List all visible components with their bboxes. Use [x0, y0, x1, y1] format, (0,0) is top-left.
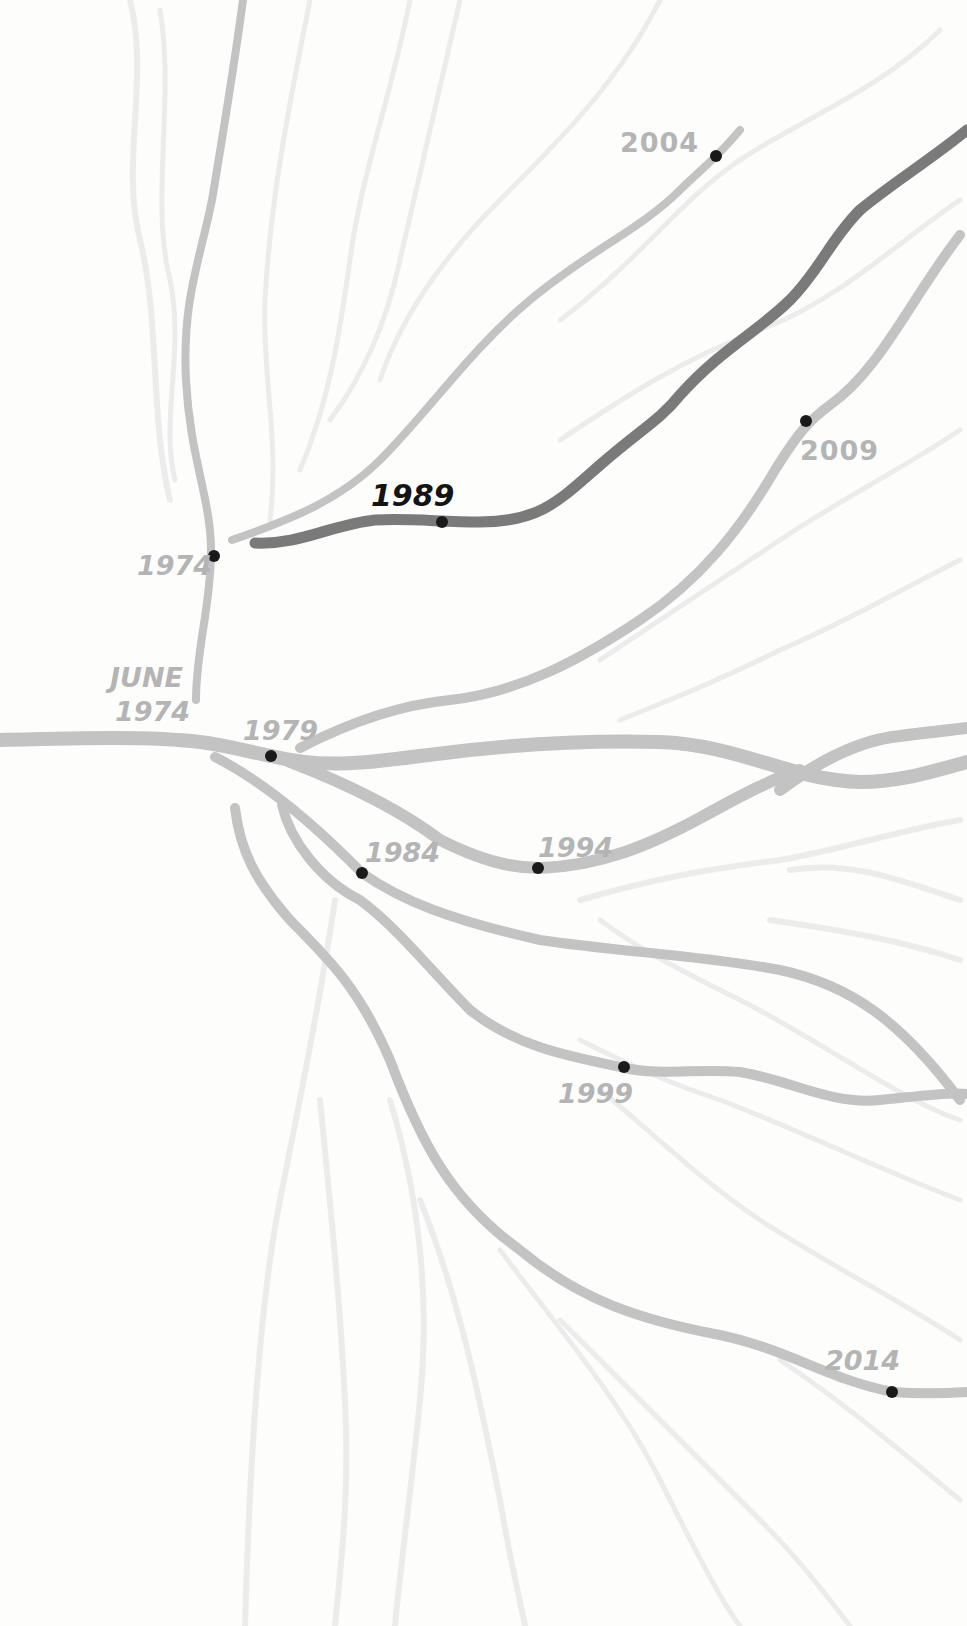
label-1989: 1989 [371, 478, 455, 513]
label-june-1974: 1974 [115, 696, 190, 727]
node-1999 [618, 1061, 630, 1073]
node-1984 [356, 867, 368, 879]
label-1974: 1974 [137, 550, 212, 581]
node-2004 [710, 150, 722, 162]
stream-1974-vertical [185, 0, 243, 700]
node-1979 [265, 750, 277, 762]
faint-stream [390, 1100, 424, 1626]
faint-stream [245, 900, 335, 1626]
stream-2004 [232, 130, 740, 540]
label-2014: 2014 [825, 1345, 900, 1376]
faint-stream [600, 1090, 960, 1340]
node-2009 [800, 415, 812, 427]
label-1984: 1984 [365, 837, 440, 868]
node-2014 [886, 1386, 898, 1398]
faint-stream [300, 0, 410, 470]
faint-stream [790, 867, 960, 900]
branching-timeline-diagram: 1974 JUNE 1974 1979 1984 1989 1994 1999 … [0, 0, 967, 1626]
label-2009: 2009 [800, 435, 879, 466]
faint-stream [380, 0, 660, 380]
label-1979: 1979 [243, 715, 318, 746]
label-2004: 2004 [620, 127, 699, 158]
label-1994: 1994 [538, 832, 613, 863]
faint-stream [160, 10, 175, 480]
node-1994 [532, 862, 544, 874]
stream-origin-horizontal [0, 738, 271, 756]
faint-stream [265, 0, 310, 520]
label-june: JUNE [105, 662, 184, 693]
faint-stream [320, 1100, 346, 1626]
node-1989 [436, 516, 448, 528]
label-1999: 1999 [558, 1078, 633, 1109]
faint-stream [780, 1360, 960, 1500]
stream-1984 [215, 757, 960, 1100]
faint-stream [620, 560, 960, 720]
faint-stream [770, 920, 960, 960]
faint-stream [580, 820, 960, 900]
